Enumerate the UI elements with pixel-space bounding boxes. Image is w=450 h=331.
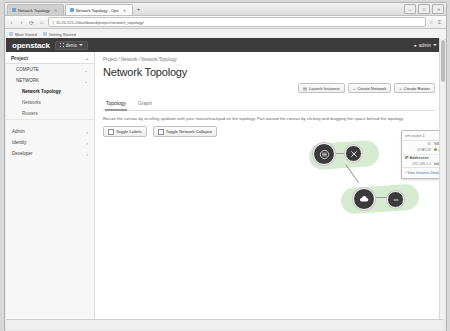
server-icon: ▤ xyxy=(303,86,307,91)
sidebar-item-label: Network Topology xyxy=(22,89,61,94)
menu-icon[interactable]: ≡ xyxy=(436,19,443,26)
grid-icon xyxy=(60,43,64,47)
forward-icon[interactable]: › xyxy=(18,19,25,26)
sidebar-item-label: Admin xyxy=(12,129,25,134)
card-row-status: STATUS Active xyxy=(402,147,443,153)
tab-strip: Network Topology ✕ Network Topology - Op… xyxy=(7,4,144,15)
button-label: Create Network xyxy=(357,86,386,91)
user-menu-label: admin xyxy=(419,43,431,48)
horizon-header: openstack demo ● admin xyxy=(6,38,443,52)
sidebar-item-label: NETWORK xyxy=(16,78,39,83)
port-node[interactable] xyxy=(387,191,404,208)
button-label: Create Router xyxy=(404,86,430,91)
card-header: vm-router-1 ✕ xyxy=(402,131,443,141)
url-text: 10.20.125.2/dashboard/project/network_to… xyxy=(56,20,144,25)
plus-icon: + xyxy=(353,86,355,91)
bookmark-label: Getting Started xyxy=(49,32,76,37)
screenshot-root: Network Topology ✕ Network Topology - Op… xyxy=(0,0,450,331)
chevron-right-icon: › xyxy=(86,151,88,157)
browser-window: Network Topology ✕ Network Topology - Op… xyxy=(4,2,447,331)
tab-label: Network Topology xyxy=(18,8,50,13)
card-row-key: STATUS xyxy=(405,148,431,152)
tab-graph[interactable]: Graph xyxy=(137,98,153,110)
instance-detail-card[interactable]: vm-router-1 ✕ ID 9453d082-5351-4439-958b… xyxy=(401,130,443,179)
chevron-down-icon xyxy=(433,44,437,46)
view-instance-details-link[interactable]: › View Instance Details xyxy=(405,171,442,175)
status-bar xyxy=(6,319,443,330)
home-icon[interactable]: ⌂ xyxy=(38,19,45,26)
user-menu[interactable]: ● admin xyxy=(414,43,437,48)
bookmark-star-icon[interactable]: ☆ xyxy=(429,19,433,25)
sidebar: Project ⌄ COMPUTE ⌄ NETWORK ⌄ N xyxy=(6,52,95,319)
brand-logo: openstack xyxy=(12,41,50,50)
address-bar[interactable]: ▯ 10.20.125.2/dashboard/project/network_… xyxy=(48,17,426,27)
project-selector[interactable]: demo xyxy=(55,41,88,50)
sidebar-item-compute[interactable]: COMPUTE ⌄ xyxy=(6,64,94,75)
browser-navbar: ‹ › ⟳ ⌂ ▯ 10.20.125.2/dashboard/project/… xyxy=(5,16,446,29)
page-viewport: openstack demo ● admin Pr xyxy=(6,38,443,319)
sidebar-item-networks[interactable]: Networks xyxy=(6,97,94,108)
bookmark-getting-started[interactable]: Getting Started xyxy=(43,32,76,37)
sidebar-item-label: Networks xyxy=(22,100,41,105)
favicon-icon xyxy=(70,8,74,12)
page-title: Network Topology xyxy=(103,66,435,78)
navbar-right: ☆ ≡ xyxy=(429,19,443,26)
launch-instance-button[interactable]: ▤ Launch Instance xyxy=(298,83,345,93)
breadcrumb: Project / Network / Network Topology xyxy=(103,57,435,62)
status-dot-icon xyxy=(434,148,437,151)
sidebar-item-admin[interactable]: Admin › xyxy=(6,126,94,137)
chevron-down-icon: ⌄ xyxy=(85,55,89,61)
reload-icon[interactable]: ⟳ xyxy=(28,19,35,26)
favicon-icon xyxy=(12,8,16,12)
create-network-button[interactable]: + Create Network xyxy=(348,83,392,93)
sidebar-header-label: Project xyxy=(11,55,28,61)
router-node[interactable] xyxy=(313,143,335,165)
chevron-right-icon: › xyxy=(86,129,88,135)
chevron-right-icon: › xyxy=(86,140,88,146)
close-icon[interactable]: ✕ xyxy=(54,8,57,13)
topology-canvas[interactable]: vm-router-1 ✕ ID 9453d082-5351-4439-958b… xyxy=(95,118,443,319)
page-icon xyxy=(43,32,47,36)
create-router-button[interactable]: + Create Router xyxy=(394,83,435,93)
view-tabs: Topology Graph xyxy=(103,98,435,111)
action-button-row: ▤ Launch Instance + Create Network + Cre… xyxy=(103,83,435,93)
close-button[interactable]: ✕ xyxy=(432,4,444,14)
maximize-button[interactable]: □ xyxy=(418,4,430,14)
new-tab-button[interactable]: + xyxy=(134,4,144,14)
user-icon: ● xyxy=(414,43,417,48)
sidebar-item-label: Identity xyxy=(12,140,27,145)
lock-icon: ▯ xyxy=(52,20,54,25)
close-icon[interactable]: ✕ xyxy=(123,8,126,13)
bookmark-most-visited[interactable]: Most Visited xyxy=(9,32,37,37)
card-title: vm-router-1 xyxy=(405,134,425,138)
chevron-down-icon xyxy=(79,44,83,46)
plus-icon: + xyxy=(399,86,401,91)
card-row-key: ID xyxy=(405,142,431,146)
bookmark-label: Most Visited xyxy=(15,32,37,37)
sidebar-item-label: Routers xyxy=(22,111,38,116)
tab-topology[interactable]: Topology xyxy=(105,98,127,111)
sidebar-item-routers[interactable]: Routers xyxy=(6,108,94,119)
browser-tab-2[interactable]: Network Topology - Ope ✕ xyxy=(65,4,133,15)
minimize-button[interactable]: — xyxy=(404,4,416,14)
sidebar-header[interactable]: Project ⌄ xyxy=(6,52,94,64)
sidebar-item-label: COMPUTE xyxy=(16,67,39,72)
window-buttons: — □ ✕ xyxy=(404,4,444,14)
scrollbar-thumb[interactable] xyxy=(441,40,445,82)
browser-tab-1[interactable]: Network Topology ✕ xyxy=(7,4,64,15)
sidebar-item-developer[interactable]: Developer › xyxy=(6,148,94,159)
folder-icon xyxy=(9,32,13,36)
main-content: Project / Network / Network Topology Net… xyxy=(95,52,443,319)
chevron-down-icon: ⌄ xyxy=(84,67,88,73)
instance-node[interactable] xyxy=(345,145,362,162)
card-footer: › View Instance Details › Open Console D… xyxy=(402,167,443,178)
sidebar-item-identity[interactable]: Identity › xyxy=(6,137,94,148)
page-body: Project ⌄ COMPUTE ⌄ NETWORK ⌄ N xyxy=(6,52,443,319)
project-selector-label: demo xyxy=(66,43,77,48)
sidebar-item-network-topology[interactable]: Network Topology xyxy=(6,86,94,97)
tab-label: Network Topology - Ope xyxy=(76,8,119,13)
sidebar-item-network[interactable]: NETWORK ⌄ xyxy=(6,75,94,86)
page-scrollbar[interactable] xyxy=(439,38,445,319)
back-icon[interactable]: ‹ xyxy=(8,19,15,26)
network-node[interactable] xyxy=(353,188,375,210)
